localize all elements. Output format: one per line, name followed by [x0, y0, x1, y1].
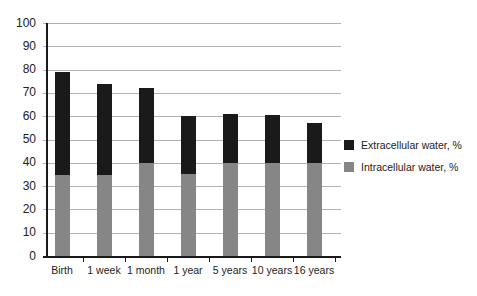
y-axis-label-90: 90: [6, 39, 36, 54]
bar-intracellular-4: [223, 163, 238, 256]
bar-extracellular-5: [265, 115, 280, 163]
x-axis-tick-5: [293, 258, 294, 262]
y-axis-label-70: 70: [6, 85, 36, 100]
bar-extracellular-2: [139, 88, 154, 163]
bar-extracellular-1: [97, 84, 112, 175]
x-axis-tick-1: [125, 258, 126, 262]
x-axis-label-6: 16 years: [291, 264, 337, 277]
bar-intracellular-6: [307, 163, 322, 256]
body-water-stacked-bar-chart: 0102030405060708090100Birth1 week1 month…: [0, 0, 477, 296]
y-axis-label-60: 60: [6, 109, 36, 124]
extracellular-legend-swatch: [344, 140, 354, 150]
gridline-90: [43, 46, 341, 47]
y-axis-label-80: 80: [6, 62, 36, 77]
intracellular-legend-swatch: [344, 162, 354, 172]
x-axis-label-1: 1 week: [81, 264, 127, 277]
bar-extracellular-4: [223, 114, 238, 163]
bar-intracellular-5: [265, 163, 280, 256]
intracellular-legend-label: Intracellular water, %: [361, 161, 458, 173]
x-axis-tick-2: [167, 258, 168, 262]
extracellular-legend-label: Extracellular water, %: [361, 139, 462, 151]
x-axis-label-5: 10 years: [249, 264, 295, 277]
bar-extracellular-6: [307, 123, 322, 163]
x-axis-tick-6: [335, 258, 336, 262]
bar-intracellular-3: [181, 174, 196, 256]
y-axis-label-10: 10: [6, 225, 36, 240]
gridline-70: [43, 93, 341, 94]
y-axis-label-30: 30: [6, 179, 36, 194]
bar-intracellular-0: [55, 174, 70, 256]
x-axis-label-3: 1 year: [165, 264, 211, 277]
bar-intracellular-2: [139, 163, 154, 256]
x-axis-label-2: 1 month: [123, 264, 169, 277]
x-axis-tick-4: [251, 258, 252, 262]
y-axis-line: [46, 23, 48, 257]
legend-entry-extracellular: Extracellular water, %: [344, 139, 462, 151]
x-axis-label-0: Birth: [39, 264, 85, 277]
y-axis-label-40: 40: [6, 155, 36, 170]
gridline-80: [43, 70, 341, 71]
legend-entry-intracellular: Intracellular water, %: [344, 161, 458, 173]
bar-extracellular-3: [181, 116, 196, 174]
x-axis-label-4: 5 years: [207, 264, 253, 277]
gridline-100: [43, 23, 341, 24]
bar-extracellular-0: [55, 72, 70, 175]
x-axis-line: [43, 256, 341, 258]
x-axis-tick-0: [83, 258, 84, 262]
bar-intracellular-1: [97, 174, 112, 256]
y-axis-label-50: 50: [6, 132, 36, 147]
y-axis-label-100: 100: [6, 16, 36, 31]
y-axis-label-0: 0: [6, 249, 36, 264]
x-axis-tick-3: [209, 258, 210, 262]
y-axis-label-20: 20: [6, 202, 36, 217]
